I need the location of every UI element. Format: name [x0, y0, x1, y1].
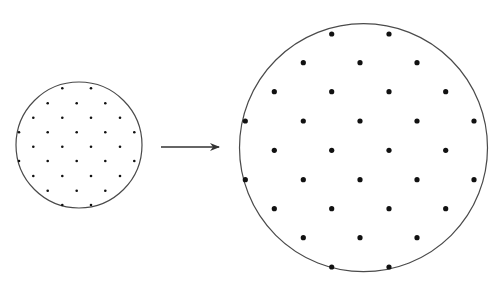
- lattice-dot: [133, 160, 136, 163]
- small-lattice-dots: [18, 87, 136, 206]
- lattice-dot: [46, 131, 49, 134]
- lattice-dot: [329, 148, 334, 153]
- lattice-dot: [32, 175, 35, 178]
- lattice-dot: [386, 31, 391, 36]
- lattice-dot: [46, 102, 49, 105]
- lattice-dot: [301, 177, 306, 182]
- lattice-dot: [301, 235, 306, 240]
- lattice-dot: [386, 264, 391, 269]
- lattice-dot: [61, 116, 64, 119]
- lattice-dot: [329, 264, 334, 269]
- lattice-dot: [357, 177, 362, 182]
- lattice-dot: [414, 118, 419, 123]
- small-circle-group: [16, 82, 142, 208]
- small-circle-outline: [16, 82, 142, 208]
- lattice-dot: [272, 89, 277, 94]
- lattice-dot: [133, 131, 136, 134]
- lattice-dot: [46, 160, 49, 163]
- lattice-dot: [104, 102, 107, 105]
- lattice-dot: [90, 204, 93, 207]
- large-circle-outline: [240, 24, 488, 272]
- lattice-dot: [414, 60, 419, 65]
- lattice-dot: [414, 235, 419, 240]
- lattice-dot: [301, 60, 306, 65]
- lattice-dot: [119, 116, 122, 119]
- lattice-dot: [46, 189, 49, 192]
- large-circle-group: [240, 24, 488, 272]
- lattice-dot: [471, 177, 476, 182]
- lattice-dot: [75, 160, 78, 163]
- lattice-dot: [272, 148, 277, 153]
- lattice-dot: [18, 160, 21, 163]
- lattice-dot: [90, 175, 93, 178]
- lattice-dot: [75, 189, 78, 192]
- lattice-dot: [61, 204, 64, 207]
- lattice-dot: [329, 89, 334, 94]
- lattice-dot: [32, 145, 35, 148]
- lattice-dot: [386, 89, 391, 94]
- lattice-dot: [443, 206, 448, 211]
- lattice-dot: [357, 118, 362, 123]
- lattice-dot: [119, 175, 122, 178]
- lattice-dot: [386, 148, 391, 153]
- lattice-dot: [119, 145, 122, 148]
- lattice-dot: [90, 116, 93, 119]
- lattice-dot: [104, 131, 107, 134]
- lattice-dot: [104, 189, 107, 192]
- lattice-dot: [301, 118, 306, 123]
- lattice-dot: [272, 206, 277, 211]
- lattice-dot: [90, 145, 93, 148]
- lattice-dot: [90, 87, 93, 90]
- lattice-dot: [243, 177, 248, 182]
- lattice-dot: [329, 206, 334, 211]
- lattice-dot: [104, 160, 107, 163]
- lattice-dot: [61, 87, 64, 90]
- large-lattice-dots: [243, 31, 477, 269]
- lattice-dot: [471, 118, 476, 123]
- lattice-dot: [329, 31, 334, 36]
- lattice-dot: [32, 116, 35, 119]
- lattice-dot: [386, 206, 391, 211]
- lattice-dot: [357, 235, 362, 240]
- lattice-dot: [443, 89, 448, 94]
- lattice-dot: [61, 175, 64, 178]
- lattice-dot: [61, 145, 64, 148]
- lattice-dot: [75, 131, 78, 134]
- lattice-dot: [357, 60, 362, 65]
- lattice-expansion-diagram: [0, 0, 491, 290]
- lattice-dot: [443, 148, 448, 153]
- lattice-dot: [243, 118, 248, 123]
- lattice-dot: [75, 102, 78, 105]
- lattice-dot: [414, 177, 419, 182]
- lattice-dot: [18, 131, 21, 134]
